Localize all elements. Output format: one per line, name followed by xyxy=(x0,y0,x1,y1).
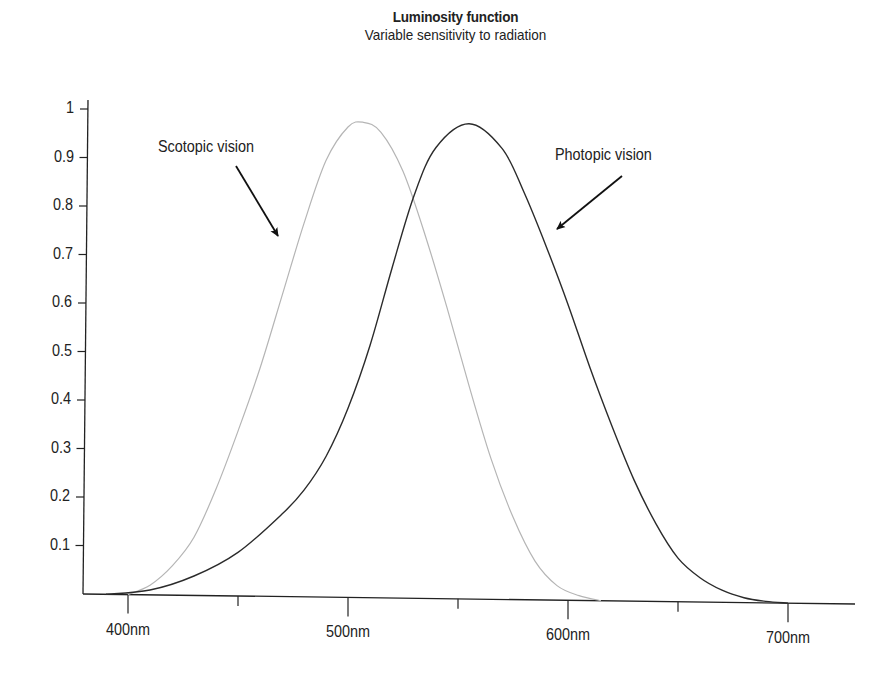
y-tick-label: 0.5 xyxy=(18,342,72,360)
y-tick-label: 0.8 xyxy=(19,196,73,214)
photopic-curve xyxy=(106,124,788,603)
x-tick-label: 700nm xyxy=(752,629,824,647)
photopic-arrow-icon xyxy=(557,176,622,229)
y-axis-line xyxy=(83,100,88,594)
y-tick-label: 1 xyxy=(20,99,74,117)
x-tick-label: 600nm xyxy=(532,626,604,644)
y-tick-label: 0.1 xyxy=(16,536,70,554)
y-tick-label: 0.6 xyxy=(18,293,72,311)
scotopic-arrow-icon xyxy=(236,166,278,236)
annotation-photopic: Photopic vision xyxy=(555,146,652,164)
annotation-scotopic: Scotopic vision xyxy=(158,138,254,156)
y-tick-label: 0.7 xyxy=(19,245,73,263)
y-tick-label: 0.9 xyxy=(20,148,74,166)
x-tick-label: 400nm xyxy=(92,621,164,639)
x-tick-label: 500nm xyxy=(312,623,384,641)
y-tick-label: 0.4 xyxy=(17,390,71,408)
y-tick-label: 0.3 xyxy=(17,439,71,457)
plot-area xyxy=(0,0,895,683)
x-axis-line xyxy=(83,594,855,604)
y-tick-label: 0.2 xyxy=(16,487,70,505)
